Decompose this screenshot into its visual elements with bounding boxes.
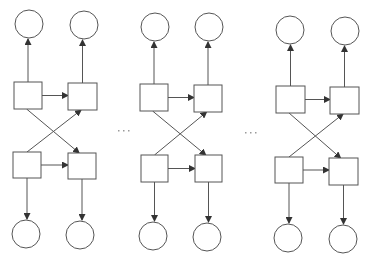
block-1 [12,10,98,249]
square-node-bottom-right [68,153,96,179]
blocks-layer [12,10,359,253]
bottom-circle-node-1 [139,222,167,250]
square-node-bottom-right [195,155,222,182]
separators-layer: ...... [118,130,257,134]
bottom-circle-node-1 [274,224,302,252]
bottom-circle-node-1 [12,220,40,248]
top-circle-node-1 [15,10,43,38]
square-node-bottom-right [329,158,358,185]
top-circle-node-1 [141,13,169,41]
bottom-circle-node-2 [329,225,357,253]
square-node-top-right [68,83,97,110]
square-node-top-left [276,86,305,113]
edge-diagonal-down-arrow [153,111,206,155]
square-node-top-left [14,82,42,109]
square-node-bottom-left [141,155,168,182]
square-node-top-left [140,84,168,111]
ellipsis-separator-1: ... [118,130,130,132]
square-node-bottom-left [275,157,303,183]
top-circle-node-2 [331,17,359,45]
top-circle-node-2 [70,11,98,39]
top-circle-node-2 [195,13,223,41]
block-3 [274,16,359,253]
block-2 [139,13,223,251]
square-node-bottom-left [13,152,41,178]
square-node-top-right [194,85,222,112]
diagram-canvas: ...... [0,0,370,260]
square-node-top-right [330,87,359,114]
top-circle-node-1 [276,16,304,44]
bottom-circle-node-2 [66,221,94,249]
ellipsis-separator-2: ... [245,132,257,134]
bottom-circle-node-2 [193,223,221,251]
